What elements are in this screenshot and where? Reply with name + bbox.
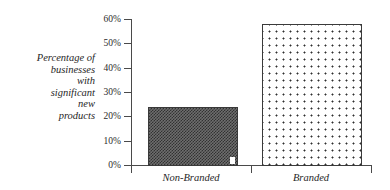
y-tick-label-40: 40% xyxy=(95,64,121,74)
y-axis-line xyxy=(131,19,132,166)
y-tick-label-30: 30% xyxy=(95,88,121,98)
bar-non-branded[interactable] xyxy=(148,107,238,166)
y-tick-mark-30 xyxy=(124,92,131,93)
y-tick-label-0: 0% xyxy=(95,161,121,171)
plot-area: 60% 50% 40% 30% 20% 10% 0% Non-Branded B… xyxy=(0,0,390,190)
y-tick-mark-0 xyxy=(124,165,131,166)
y-tick-mark-60 xyxy=(124,19,131,20)
x-axis-label-non-branded: Non-Branded xyxy=(131,172,251,184)
y-tick-label-50: 50% xyxy=(95,39,121,49)
y-tick-mark-10 xyxy=(124,141,131,142)
y-tick-mark-40 xyxy=(124,68,131,69)
y-tick-mark-20 xyxy=(124,116,131,117)
y-tick-mark-50 xyxy=(124,43,131,44)
bar-chart: Percentage of businesses with significan… xyxy=(0,0,390,190)
y-tick-label-60: 60% xyxy=(95,15,121,25)
bar-branded[interactable] xyxy=(262,24,362,166)
x-axis-label-branded: Branded xyxy=(251,172,371,184)
x-tick-mark-end xyxy=(371,166,372,173)
y-tick-label-20: 20% xyxy=(95,112,121,122)
bar-notch-artifact xyxy=(230,157,235,164)
y-tick-label-10: 10% xyxy=(95,137,121,147)
